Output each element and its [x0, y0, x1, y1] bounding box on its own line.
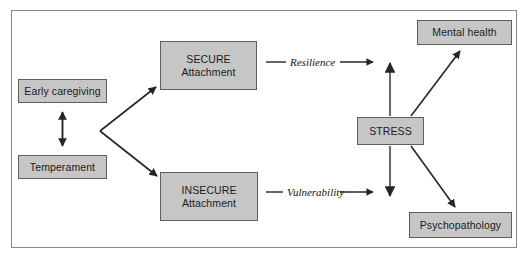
node-insecure-attachment[interactable]: INSECURE Attachment	[160, 172, 258, 221]
node-insecure-attachment-label-line1: INSECURE	[181, 184, 236, 197]
node-psychopathology-label: Psychopathology	[420, 219, 501, 232]
node-secure-attachment-label-line2: Attachment	[181, 66, 235, 79]
node-mental-health-label: Mental health	[432, 26, 496, 39]
node-temperament-label: Temperament	[30, 161, 95, 174]
node-stress[interactable]: STRESS	[357, 117, 424, 145]
node-temperament[interactable]: Temperament	[18, 155, 107, 179]
node-early-caregiving-label: Early caregiving	[24, 85, 100, 98]
node-early-caregiving[interactable]: Early caregiving	[18, 79, 107, 103]
edge-label-vulnerability: Vulnerability	[287, 186, 344, 198]
edge-label-resilience: Resilience	[290, 56, 335, 68]
node-insecure-attachment-label-line2: Attachment	[182, 197, 236, 210]
diagram-canvas: Early caregiving Temperament SECURE Atta…	[0, 0, 530, 261]
node-mental-health[interactable]: Mental health	[417, 20, 512, 45]
node-secure-attachment[interactable]: SECURE Attachment	[160, 41, 257, 90]
node-secure-attachment-label-line1: SECURE	[186, 53, 230, 66]
node-psychopathology[interactable]: Psychopathology	[409, 212, 512, 238]
node-stress-label: STRESS	[369, 125, 412, 138]
